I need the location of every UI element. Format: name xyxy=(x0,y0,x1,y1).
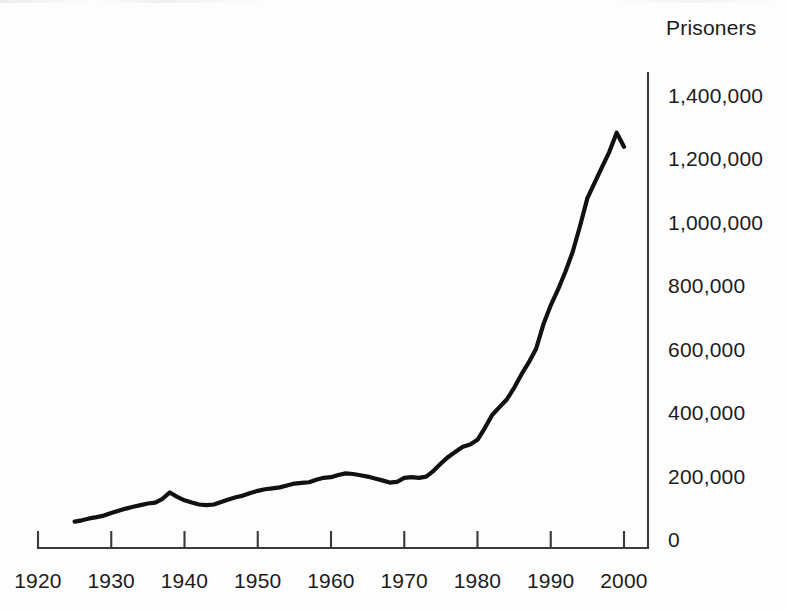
x-axis-tick-label: 2000 xyxy=(600,569,648,592)
y-axis-tick-label: 0 xyxy=(668,528,680,551)
x-axis-tick-label: 1950 xyxy=(234,569,282,592)
y-axis-tick-label: 1,200,000 xyxy=(668,147,763,170)
y-axis-tick-label: 1,000,000 xyxy=(668,211,763,234)
x-axis-tick-label: 1920 xyxy=(14,569,62,592)
y-axis-tick-label: 200,000 xyxy=(668,465,745,488)
line-chart-plot: 192019301940195019601970198019902000 020… xyxy=(0,0,786,611)
y-axis-tick-label: 800,000 xyxy=(668,274,745,297)
x-axis-tick-label: 1990 xyxy=(527,569,575,592)
chart-page: Prisoners 192019301940195019601970198019… xyxy=(0,0,786,611)
x-axis-tick-label: 1930 xyxy=(87,569,135,592)
data-series-prisoners xyxy=(75,133,624,522)
y-axis-tick-label: 400,000 xyxy=(668,401,745,424)
y-axis-tick-label: 1,400,000 xyxy=(668,84,763,107)
x-axis-tick-label: 1970 xyxy=(380,569,428,592)
axis-lines xyxy=(38,73,648,548)
y-axis-tick-label: 600,000 xyxy=(668,338,745,361)
y-axis-tick-labels: 0200,000400,000600,000800,0001,000,0001,… xyxy=(668,84,763,551)
x-axis-tick-label: 1960 xyxy=(307,569,355,592)
x-axis-tick-label: 1940 xyxy=(161,569,209,592)
x-axis-ticks xyxy=(38,531,624,548)
x-axis-tick-label: 1980 xyxy=(454,569,502,592)
x-axis-tick-labels: 192019301940195019601970198019902000 xyxy=(14,569,648,592)
